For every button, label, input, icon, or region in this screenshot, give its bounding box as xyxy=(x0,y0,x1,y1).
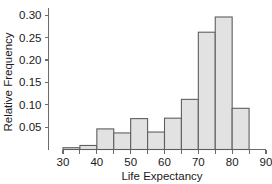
x-axis-tick-label: 90 xyxy=(260,156,272,168)
y-axis-tick-label: 0.15 xyxy=(19,76,41,88)
histogram-bar xyxy=(165,118,182,149)
histogram-figure: Relative Frequency Life Expectancy 0.050… xyxy=(0,0,272,184)
y-axis-title: Relative Frequency xyxy=(2,32,14,131)
histogram-bar xyxy=(198,32,215,149)
x-axis-tick-label: 70 xyxy=(192,156,205,168)
y-axis: 0.050.100.150.200.250.30 xyxy=(19,8,48,149)
x-axis-tick-label: 60 xyxy=(158,156,171,168)
y-axis-tick-label: 0.05 xyxy=(19,121,41,133)
y-axis-tick-label: 0.20 xyxy=(19,54,41,66)
histogram-bar xyxy=(63,148,80,150)
histogram-bar xyxy=(148,132,165,149)
histogram-bar xyxy=(215,17,232,150)
histogram-bar xyxy=(131,119,148,150)
histogram-bar xyxy=(232,108,249,149)
x-axis-tick-label: 50 xyxy=(124,156,137,168)
x-axis-tick-label: 40 xyxy=(90,156,103,168)
histogram-plot-area: Relative Frequency Life Expectancy 0.050… xyxy=(0,0,272,184)
histogram-bar xyxy=(97,129,114,150)
x-axis-title: Life Expectancy xyxy=(121,170,202,182)
x-axis: 30405060708090 xyxy=(57,150,272,168)
x-axis-tick-label: 30 xyxy=(57,156,70,168)
histogram-bar xyxy=(80,145,97,149)
y-axis-tick-label: 0.25 xyxy=(19,32,41,44)
x-axis-tick-label: 80 xyxy=(226,156,239,168)
histogram-bar xyxy=(114,133,131,150)
histogram-bars xyxy=(63,17,249,150)
y-axis-tick-label: 0.30 xyxy=(19,9,41,21)
y-axis-tick-label: 0.10 xyxy=(19,99,41,111)
histogram-bar xyxy=(181,99,198,149)
